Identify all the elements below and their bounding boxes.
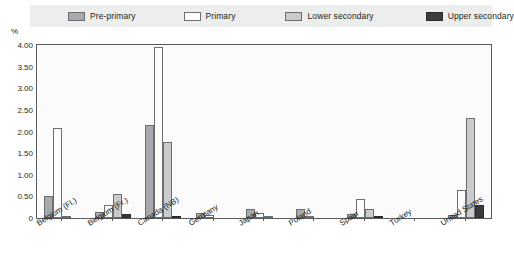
chart-plot-area — [36, 44, 492, 219]
bar-group — [196, 45, 232, 218]
legend-swatch-upper-secondary — [426, 12, 443, 21]
legend-label-primary: Primary — [206, 11, 236, 21]
bar-group — [296, 45, 332, 218]
y-axis-tick-label: 1.50 — [3, 149, 33, 158]
bar-group — [448, 45, 484, 218]
bar-lower-secondary[interactable] — [365, 209, 374, 219]
bar-group — [145, 45, 181, 218]
x-axis-tick-mark — [313, 218, 314, 221]
legend-item-lower-secondary: Lower secondary — [285, 11, 373, 21]
y-axis-tick-label: 2.50 — [3, 105, 33, 114]
y-axis-tick-label: 3.00 — [3, 84, 33, 93]
x-axis-category-labels: Belgium (Fl.)Belgium (Fr.)Canada (NB)Ger… — [36, 220, 492, 262]
y-axis-tick-label: 0.50 — [3, 192, 33, 201]
legend-swatch-pre-primary — [68, 12, 85, 21]
x-axis-tick-mark — [364, 218, 365, 221]
chart-bars-container — [37, 45, 491, 218]
legend-item-upper-secondary: Upper secondary — [426, 11, 514, 21]
legend-item-primary: Primary — [184, 11, 236, 21]
legend-item-pre-primary: Pre-primary — [68, 11, 136, 21]
bar-upper-secondary[interactable] — [172, 216, 181, 218]
y-axis-tick-label: 0 — [3, 214, 33, 223]
bar-upper-secondary[interactable] — [122, 214, 131, 218]
legend-label-lower-secondary: Lower secondary — [307, 11, 373, 21]
x-axis-tick-mark — [414, 218, 415, 221]
bar-pre-primary[interactable] — [145, 125, 154, 218]
legend-swatch-lower-secondary — [285, 12, 302, 21]
y-axis-tick-label: 2.00 — [3, 127, 33, 136]
x-axis-tick-mark — [112, 218, 113, 221]
bar-group — [397, 45, 433, 218]
y-axis-unit-label: % — [11, 27, 18, 36]
x-axis-tick-mark — [162, 218, 163, 221]
legend-swatch-primary — [184, 12, 201, 21]
bar-group — [95, 45, 131, 218]
bar-upper-secondary[interactable] — [374, 216, 383, 218]
chart-legend: Pre-primary Primary Lower secondary Uppe… — [30, 5, 492, 27]
y-axis-tick-labels: 4.003.503.002.502.001.501.000.500 — [0, 44, 33, 219]
y-axis-tick-label: 1.00 — [3, 170, 33, 179]
x-axis-tick-mark — [465, 218, 466, 221]
bar-lower-secondary[interactable] — [264, 216, 273, 218]
legend-label-pre-primary: Pre-primary — [90, 11, 136, 21]
y-axis-tick-label: 3.50 — [3, 62, 33, 71]
x-axis-tick-mark — [213, 218, 214, 221]
bar-primary[interactable] — [154, 47, 163, 218]
y-axis-tick-label: 4.00 — [3, 41, 33, 50]
legend-label-upper-secondary: Upper secondary — [448, 11, 514, 21]
bar-group — [44, 45, 80, 218]
x-axis-tick-mark — [263, 218, 264, 221]
bar-group — [347, 45, 383, 218]
bar-lower-secondary[interactable] — [62, 216, 71, 218]
bar-group — [246, 45, 282, 218]
x-axis-tick-mark — [61, 218, 62, 221]
